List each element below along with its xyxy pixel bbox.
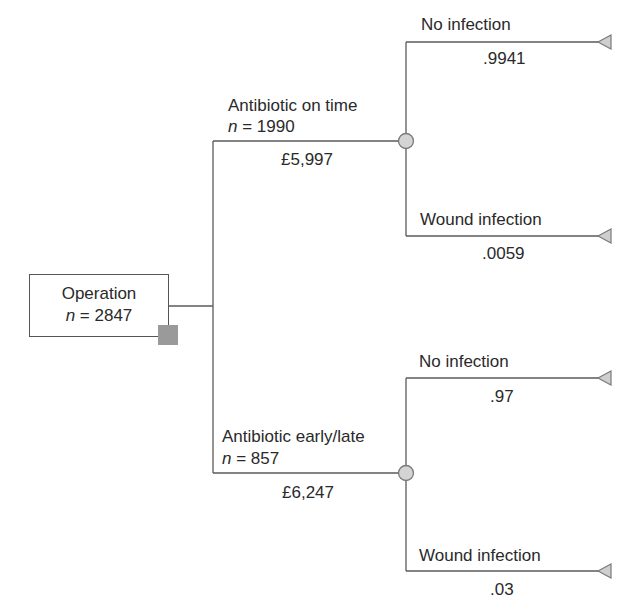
- terminal-node-icon: [598, 371, 611, 385]
- branch-2-count: n = 857: [222, 449, 279, 469]
- root-node-count: n = 2847: [30, 305, 168, 327]
- branch-2-label: Antibiotic early/late: [222, 427, 365, 447]
- terminal-node-icon: [598, 564, 611, 578]
- branch-2-outcome-1-probability: .97: [490, 387, 514, 407]
- branch-1-label: Antibiotic on time: [228, 96, 357, 116]
- branch-2-outcome-1-label: No infection: [419, 352, 509, 372]
- branch-1-outcome-2-label: Wound infection: [420, 210, 542, 230]
- branch-1-cost: £5,997: [281, 150, 333, 170]
- root-node-operation: Operation n = 2847: [29, 274, 169, 337]
- terminal-node-icon: [598, 229, 611, 243]
- branch-2-outcome-2-probability: .03: [490, 580, 514, 600]
- chance-node-icon: [399, 466, 414, 481]
- terminal-node-icon: [598, 35, 611, 49]
- decision-node-icon: [158, 325, 178, 345]
- branch-2-cost: £6,247: [282, 483, 334, 503]
- branch-1-outcome-1-label: No infection: [421, 15, 511, 35]
- branch-2-outcome-2-label: Wound infection: [419, 546, 541, 566]
- chance-node-icon: [399, 134, 414, 149]
- branch-1-outcome-1-probability: .9941: [483, 49, 526, 69]
- branch-1-outcome-2-probability: .0059: [482, 244, 525, 264]
- root-node-label: Operation: [30, 283, 168, 305]
- branch-1-count: n = 1990: [228, 117, 295, 137]
